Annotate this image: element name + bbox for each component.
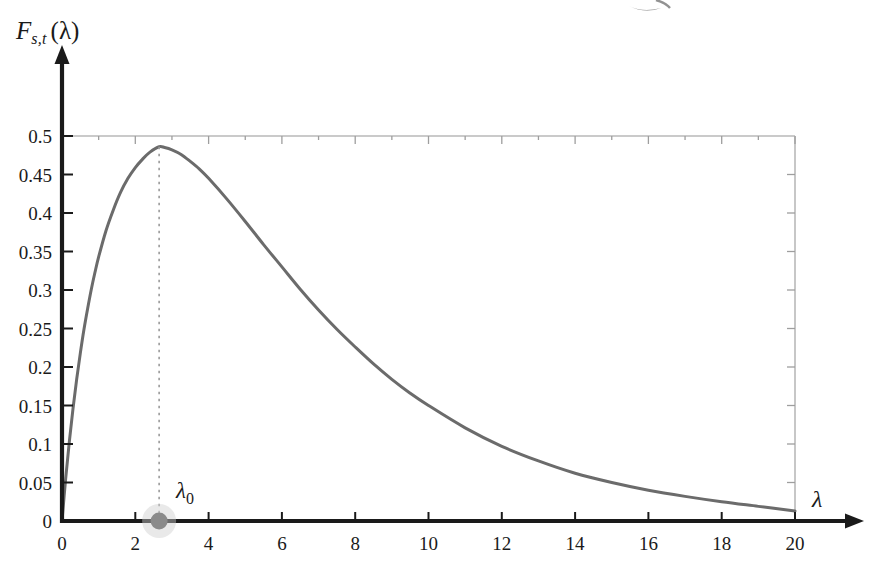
lambda0-annotation-label: λ0	[176, 479, 194, 507]
y-axis-label-symbol: F	[16, 17, 31, 44]
lambda0-annotation-subscript: 0	[186, 490, 194, 507]
plot-frame	[62, 136, 795, 521]
y-tick-label: 0.15	[0, 396, 52, 415]
x-tick-label: 0	[57, 534, 67, 553]
x-tick-label: 20	[786, 534, 805, 553]
y-tick-label: 0	[0, 512, 52, 531]
page-artifact-top	[629, 0, 670, 11]
y-tick-label: 0.05	[0, 473, 52, 492]
y-tick-label: 0.1	[0, 435, 52, 454]
x-tick-label: 14	[566, 534, 585, 553]
x-tick-label: 10	[419, 534, 438, 553]
frame-right-ticks	[787, 175, 795, 483]
y-tick-label: 0.4	[0, 204, 52, 223]
y-tick-label: 0.5	[0, 127, 52, 146]
x-axis-arrowhead	[845, 514, 864, 529]
lambda0-marker	[142, 504, 176, 538]
x-tick-label: 8	[350, 534, 360, 553]
x-axis-label: λ	[812, 487, 822, 511]
data-curve	[62, 147, 795, 521]
x-tick-label: 2	[131, 534, 141, 553]
x-tick-label: 4	[204, 534, 214, 553]
figure-container: Fs,t(λ) λ λ0 00.050.10.150.20.250.30.350…	[0, 0, 870, 575]
lambda0-marker-dot	[151, 513, 168, 530]
lambda0-annotation-symbol: λ	[176, 478, 186, 503]
y-tick-label: 0.35	[0, 242, 52, 261]
y-axis-label-subscript: s,t	[31, 30, 46, 47]
y-tick-label: 0.3	[0, 281, 52, 300]
y-axis-label-argument: (λ)	[51, 17, 80, 44]
y-axis-label: Fs,t(λ)	[16, 18, 79, 47]
x-tick-label: 18	[712, 534, 731, 553]
y-axis-arrowhead	[55, 45, 70, 64]
y-tick-label: 0.2	[0, 358, 52, 377]
y-tick-label: 0.25	[0, 319, 52, 338]
x-axis	[60, 514, 864, 529]
frame-top-ticks	[99, 136, 795, 144]
x-tick-label: 6	[277, 534, 287, 553]
y-tick-label: 0.45	[0, 165, 52, 184]
chart-plot-area	[0, 0, 870, 575]
x-tick-label: 16	[639, 534, 658, 553]
x-tick-label: 12	[492, 534, 511, 553]
